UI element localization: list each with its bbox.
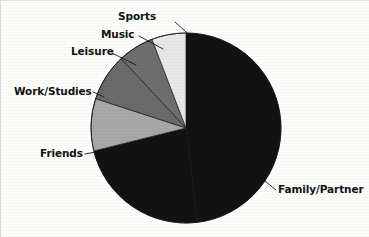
- pie-label-sports: Sports: [118, 11, 156, 22]
- pie-slices: [91, 33, 281, 223]
- pie-label-work-studies: Work/Studies: [14, 86, 92, 97]
- pie-chart-canvas: [0, 0, 369, 237]
- pie-slice-family-partner: [186, 33, 281, 222]
- pie-label-family-partner: Family/Partner: [278, 184, 364, 195]
- pie-label-music: Music: [101, 29, 135, 40]
- pie-label-leisure: Leisure: [71, 46, 114, 57]
- pie-label-friends: Friends: [40, 148, 83, 159]
- pie-chart-figure: Sports Music Leisure Work/Studies Friend…: [0, 0, 369, 237]
- leader-line-family-partner: [265, 181, 276, 190]
